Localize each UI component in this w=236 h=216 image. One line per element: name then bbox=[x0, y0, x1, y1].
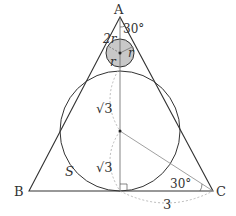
right-angle-marker bbox=[120, 184, 127, 191]
dashed-arc-upper bbox=[110, 67, 120, 131]
center-to-c-line bbox=[120, 131, 213, 191]
label-angle-c: 30° bbox=[170, 177, 191, 191]
label-sqrt3-upper: √3 bbox=[96, 101, 113, 116]
label-s: S bbox=[65, 164, 74, 179]
label-base-3: 3 bbox=[163, 197, 171, 212]
angle-arc-c bbox=[200, 184, 202, 191]
label-sqrt3-lower: √3 bbox=[96, 160, 113, 175]
label-2r: 2r bbox=[102, 32, 118, 46]
label-c: C bbox=[216, 184, 226, 199]
geometry-diagram: A B C 30° 2r r r √3 √3 S 30° 3 bbox=[0, 0, 236, 216]
small-circle-center bbox=[119, 52, 122, 55]
label-a: A bbox=[113, 2, 124, 17]
large-circle-center bbox=[119, 130, 122, 133]
label-angle-top: 30° bbox=[123, 22, 144, 36]
label-b: B bbox=[14, 184, 24, 199]
